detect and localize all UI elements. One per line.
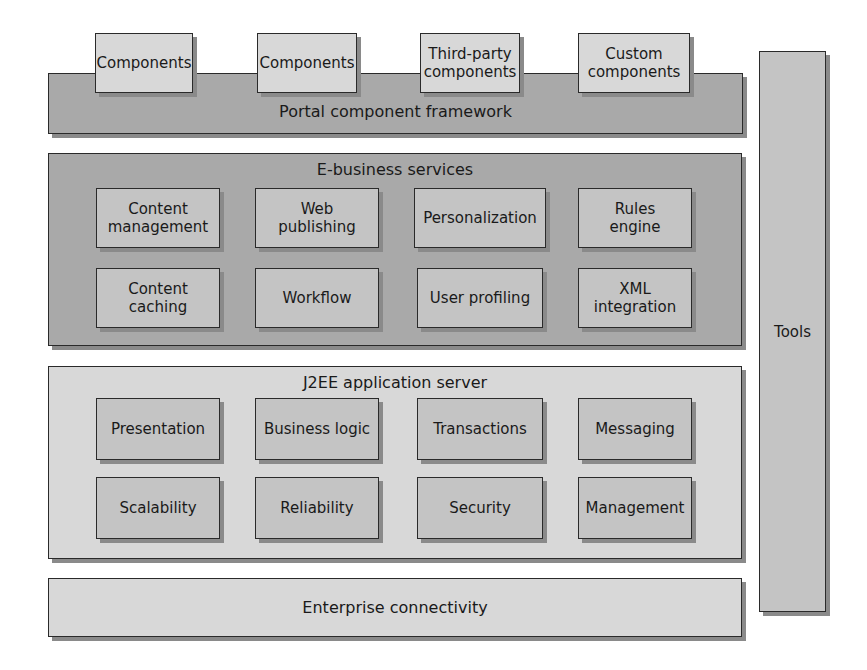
box-label: Security bbox=[449, 499, 511, 517]
box-label: Content management bbox=[108, 200, 208, 236]
tools-label: Tools bbox=[774, 323, 811, 341]
box-label: Business logic bbox=[264, 420, 370, 438]
component-box-2: Components bbox=[257, 33, 357, 93]
component-label: Third-party components bbox=[424, 45, 517, 81]
box-label: Content caching bbox=[128, 280, 188, 316]
component-label: Components bbox=[260, 54, 355, 72]
custom-components-box: Custom components bbox=[578, 33, 690, 93]
enterprise-connectivity-layer: Enterprise connectivity bbox=[48, 578, 742, 637]
content-caching-box: Content caching bbox=[96, 268, 220, 328]
reliability-box: Reliability bbox=[255, 477, 379, 539]
messaging-box: Messaging bbox=[578, 398, 692, 460]
box-label: User profiling bbox=[430, 289, 530, 307]
box-label: Personalization bbox=[423, 209, 537, 227]
box-label: Management bbox=[586, 499, 685, 517]
transactions-box: Transactions bbox=[417, 398, 543, 460]
box-label: Scalability bbox=[119, 499, 196, 517]
box-label: Web publishing bbox=[278, 200, 355, 236]
j2ee-title: J2EE application server bbox=[49, 373, 741, 392]
management-box: Management bbox=[578, 477, 692, 539]
ebusiness-title: E-business services bbox=[49, 160, 741, 179]
presentation-box: Presentation bbox=[96, 398, 220, 460]
rules-engine-box: Rules engine bbox=[578, 188, 692, 248]
personalization-box: Personalization bbox=[414, 188, 546, 248]
box-label: Reliability bbox=[280, 499, 353, 517]
box-label: Rules engine bbox=[609, 200, 660, 236]
portal-framework-label: Portal component framework bbox=[279, 102, 512, 121]
tools-layer: Tools bbox=[759, 51, 826, 612]
component-label: Components bbox=[97, 54, 192, 72]
security-box: Security bbox=[417, 477, 543, 539]
business-logic-box: Business logic bbox=[255, 398, 379, 460]
box-label: Workflow bbox=[283, 289, 352, 307]
third-party-components-box: Third-party components bbox=[420, 33, 520, 93]
box-label: Presentation bbox=[111, 420, 205, 438]
workflow-box: Workflow bbox=[255, 268, 379, 328]
content-management-box: Content management bbox=[96, 188, 220, 248]
scalability-box: Scalability bbox=[96, 477, 220, 539]
box-label: Messaging bbox=[595, 420, 675, 438]
enterprise-connectivity-label: Enterprise connectivity bbox=[302, 598, 487, 617]
box-label: Transactions bbox=[433, 420, 527, 438]
component-box-1: Components bbox=[95, 33, 193, 93]
user-profiling-box: User profiling bbox=[417, 268, 543, 328]
component-label: Custom components bbox=[588, 45, 681, 81]
box-label: XML integration bbox=[594, 280, 676, 316]
web-publishing-box: Web publishing bbox=[255, 188, 379, 248]
xml-integration-box: XML integration bbox=[578, 268, 692, 328]
